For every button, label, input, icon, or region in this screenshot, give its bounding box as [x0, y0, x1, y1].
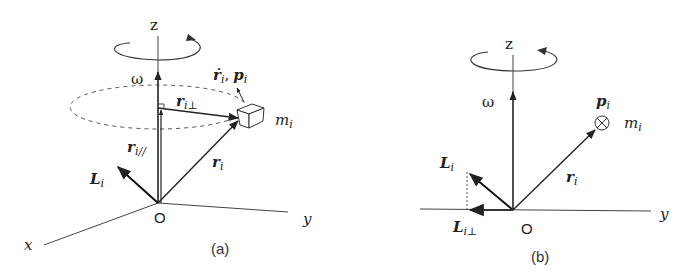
rotation-arrowhead-b	[537, 47, 547, 55]
origin-label-a: O	[154, 209, 166, 226]
y-axis-label-b: y	[659, 205, 669, 223]
x-axis-a	[44, 203, 158, 245]
r-vector-b	[513, 130, 595, 210]
y-axis-label-a: y	[302, 210, 312, 228]
L-label-b: Li	[439, 154, 454, 174]
r-parallel-label: ri//	[127, 138, 147, 158]
y-axis-a	[158, 203, 288, 212]
mass-symbol-b	[595, 116, 609, 130]
z-axis-label-a: z	[150, 16, 158, 34]
r-label-a: ri	[212, 153, 223, 173]
r-label-b: ri	[566, 168, 577, 188]
z-axis-label-b: z	[505, 35, 513, 53]
L-vector-b	[470, 174, 513, 210]
L-vector-a	[118, 167, 158, 203]
r-vector-a	[158, 121, 238, 203]
panel-a: z ω ṙi,pi ri⊥ mi ri// ri Li O y x (a)	[24, 16, 312, 257]
panel-b: z ω pi mi Li ri Li⊥ O y (b)	[420, 35, 669, 265]
L-label-a: Li	[89, 170, 104, 190]
velocity-vector-a	[237, 88, 244, 102]
r-perp-label: ri⊥	[176, 92, 198, 112]
mass-label-a: mi	[275, 111, 293, 131]
p-label-b: pi	[596, 92, 610, 112]
mass-label-b: mi	[624, 114, 642, 134]
x-axis-label-a: x	[24, 236, 33, 254]
origin-label-b: O	[521, 220, 533, 237]
caption-a: (a)	[211, 240, 229, 257]
omega-label-a: ω	[131, 70, 143, 88]
rotation-arrow-a	[115, 38, 201, 60]
r-perp-vector	[158, 108, 238, 118]
y-axis-b	[420, 209, 651, 211]
mass-cube-a	[237, 104, 264, 128]
omega-label-b: ω	[482, 93, 494, 111]
L-perp-label: Li⊥	[452, 218, 477, 238]
rotation-angular-momentum-diagram: z ω ṙi,pi ri⊥ mi ri// ri Li O y x (a)	[0, 0, 693, 279]
r-dot-p-label: ṙi,pi	[213, 66, 247, 86]
caption-b: (b)	[531, 248, 549, 265]
rotation-arrowhead-a	[186, 34, 196, 41]
